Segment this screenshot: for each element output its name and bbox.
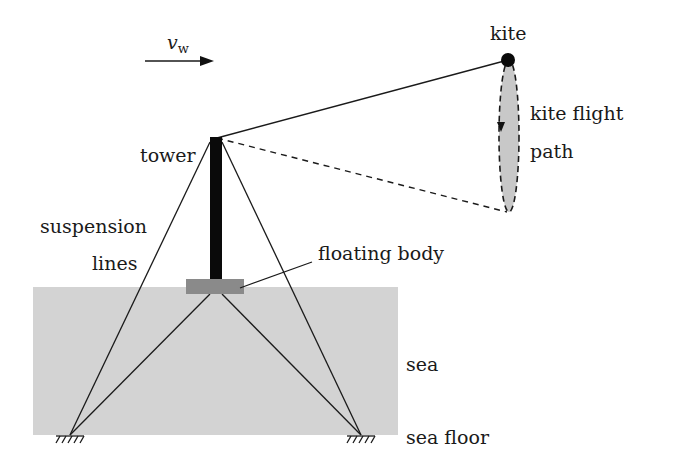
kite-icon bbox=[501, 53, 515, 67]
kite-flight-path-label-line1: kite flight bbox=[530, 102, 624, 124]
sea-region bbox=[33, 287, 398, 435]
wind-velocity-label: vw bbox=[167, 31, 189, 56]
tower bbox=[210, 137, 222, 279]
anchor-right-icon bbox=[347, 436, 375, 443]
tether-line-dashed bbox=[217, 138, 507, 212]
sea-floor-label: sea floor bbox=[406, 426, 490, 448]
tower-label: tower bbox=[140, 144, 197, 166]
sea-label: sea bbox=[406, 353, 438, 375]
kite-flight-path-label-line2: path bbox=[530, 140, 573, 162]
floating-body-label: floating body bbox=[318, 242, 444, 264]
floating-body bbox=[186, 279, 244, 294]
tether-line bbox=[217, 60, 508, 138]
anchor-left-icon bbox=[56, 436, 84, 443]
kite-label: kite bbox=[490, 22, 526, 44]
floating-body-leader-line bbox=[240, 262, 312, 288]
kite-power-system-diagram: vw kite kite flight path tower suspensio… bbox=[0, 0, 676, 473]
kite-flight-path bbox=[499, 60, 519, 212]
wind-arrow-icon bbox=[200, 56, 214, 66]
suspension-lines-label-line2: lines bbox=[92, 252, 137, 274]
suspension-lines-label-line1: suspension bbox=[40, 215, 147, 237]
